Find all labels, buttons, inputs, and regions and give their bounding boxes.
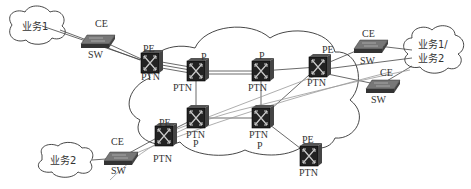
- pe3-type-label: PTN: [153, 153, 172, 164]
- ce-mid-right-type-label: SW: [371, 94, 387, 105]
- pe2-router-icon[interactable]: [309, 54, 331, 77]
- p3-role-label: P: [193, 138, 199, 149]
- p1-role-label: P: [201, 51, 207, 62]
- p4-router-icon[interactable]: [252, 105, 274, 128]
- pe4-router-icon[interactable]: [300, 143, 322, 166]
- p2-router-icon[interactable]: [252, 58, 274, 81]
- p4-type-label: PTN: [249, 129, 268, 140]
- ce-bottom-left-role-label: CE: [111, 136, 124, 147]
- service1-label: 业务1: [22, 20, 48, 32]
- p2-type-label: PTN: [248, 82, 267, 93]
- ce-mid-right-switch-icon[interactable]: [366, 80, 400, 93]
- p1-type-label: PTN: [173, 82, 192, 93]
- pe4-role-label: PE: [302, 134, 314, 145]
- p4-role-label: P: [257, 140, 263, 151]
- ce-top-left-role-label: CE: [95, 18, 108, 29]
- ce-bottom-left-type-label: SW: [111, 165, 127, 176]
- ce-top-left-switch-icon[interactable]: [81, 35, 115, 48]
- pe2-role-label: PE: [322, 44, 334, 55]
- service12-label-line2: 业务2: [418, 52, 444, 64]
- pe4-type-label: PTN: [299, 167, 318, 178]
- p2-role-label: P: [259, 50, 265, 61]
- pe3-role-label: PE: [159, 117, 171, 128]
- ce-top-right-type-label: SW: [360, 55, 376, 66]
- service12-label-line1: 业务1/: [418, 38, 448, 50]
- ce-mid-right-role-label: CE: [380, 67, 393, 78]
- service2-label: 业务2: [50, 154, 76, 166]
- pe2-type-label: PTN: [307, 77, 326, 88]
- pe1-role-label: PE: [143, 43, 155, 54]
- ce-top-right-role-label: CE: [362, 28, 375, 39]
- pe1-type-label: PTN: [141, 71, 160, 82]
- p3-router-icon[interactable]: [187, 105, 209, 128]
- ce-top-right-switch-icon[interactable]: [354, 40, 388, 53]
- ce-bottom-left-switch-icon[interactable]: [104, 152, 138, 165]
- network-diagram: 业务1 业务1/ 业务2 业务2 PE PTN P PTN P PTN PE P…: [0, 0, 471, 189]
- ce-top-left-type-label: SW: [88, 49, 104, 60]
